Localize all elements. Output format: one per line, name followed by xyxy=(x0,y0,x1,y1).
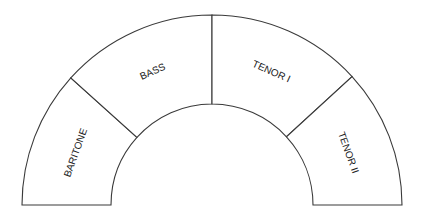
seating-diagram: BARITONEBASSTENOR ITENOR II xyxy=(0,0,423,217)
